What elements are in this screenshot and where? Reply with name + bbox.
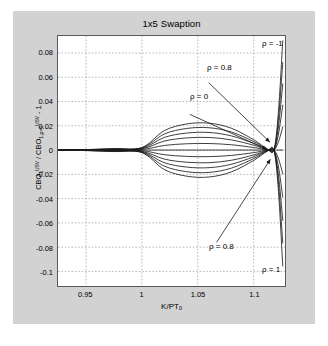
series-curve <box>58 147 283 266</box>
x-tick-label: 1.1 <box>249 290 259 299</box>
annotation-rho-1: ρ = 1 <box>262 265 280 274</box>
y-axis-tick-labels: 0.080.060.040.020-0.02-0.04-0.06-0.08-0.… <box>13 35 53 287</box>
y-tick-label: 0.08 <box>38 48 53 57</box>
x-axis-tick-labels: 0.9511.051.1 <box>57 290 286 302</box>
annotation-rho-minus-1: ρ = -1 <box>262 39 283 48</box>
series-curve <box>58 149 283 197</box>
x-tick-label: 1 <box>140 290 144 299</box>
y-tick-label: 0 <box>49 145 53 154</box>
grid-lines <box>58 36 285 286</box>
series-curve <box>58 148 283 243</box>
series-curve <box>58 149 283 173</box>
plot-area <box>57 35 286 287</box>
series-curve <box>58 63 283 153</box>
annotation-rho-0-middle: ρ = 0 <box>190 92 208 101</box>
annotation-rho-0p8-upper: ρ = 0.8 <box>207 63 232 72</box>
series-curve <box>58 127 283 151</box>
x-axis-label: K/PT0 <box>57 302 286 311</box>
series-curve <box>58 148 283 220</box>
annotation-arrow-line <box>217 159 271 242</box>
y-tick-label: -0.08 <box>36 243 53 252</box>
chart-title: 1x5 Swaption <box>57 18 286 29</box>
curve-group <box>58 41 283 266</box>
figure-panel: 1x5 Swaption 0.080.060.040.020-0.02-0.04… <box>13 11 315 324</box>
y-tick-label: -0.1 <box>40 268 53 277</box>
x-tick-label: 1.05 <box>191 290 206 299</box>
annotation-rho-0p8-lower: ρ = 0.8 <box>209 242 234 251</box>
plot-canvas <box>58 36 285 286</box>
x-tick-label: 0.95 <box>78 290 93 299</box>
y-tick-label: -0.06 <box>36 219 53 228</box>
y-axis-label: CBO1USV / CBO1,ρ=0USV - 1 <box>34 78 43 218</box>
annotation-arrow-head <box>266 159 270 164</box>
